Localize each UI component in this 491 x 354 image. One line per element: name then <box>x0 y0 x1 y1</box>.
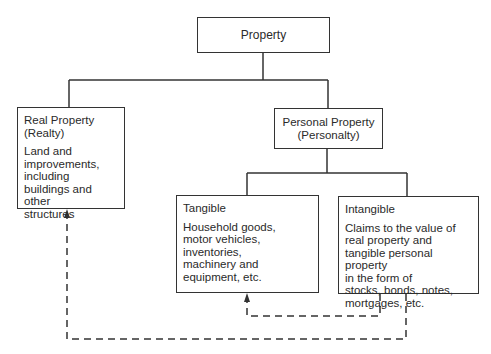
node-personal-property: Personal Property (Personalty) <box>274 108 383 149</box>
node-description: Claims to the value of real property and… <box>345 222 472 310</box>
node-tangible: Tangible Household goods, motor vehicles… <box>176 195 319 293</box>
node-title: Intangible <box>345 203 472 216</box>
node-title: Real Property (Realty) <box>24 114 118 139</box>
node-title: Property <box>241 29 286 42</box>
node-description: Land and improvements, including buildin… <box>24 145 118 220</box>
node-property: Property <box>197 17 330 53</box>
node-title: Tangible <box>183 202 312 215</box>
node-intangible: Intangible Claims to the value of real p… <box>338 196 479 294</box>
node-real-property: Real Property (Realty) Land and improvem… <box>17 107 125 209</box>
node-title: Personal Property (Personalty) <box>282 116 374 141</box>
arrow-up-icon <box>244 293 250 302</box>
node-description: Household goods, motor vehicles, invento… <box>183 221 312 284</box>
